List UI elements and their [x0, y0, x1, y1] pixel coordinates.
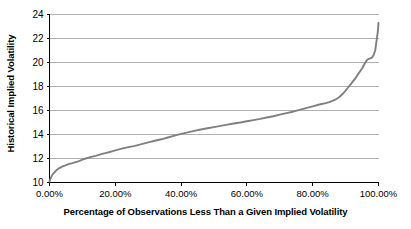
x-axis-title: Percentage of Observations Less Than a G…: [0, 206, 411, 217]
x-tick-label: 60.00%: [231, 188, 264, 199]
y-tick-label: 12: [32, 153, 44, 164]
y-tick-label: 18: [32, 81, 44, 92]
data-series-line: [50, 23, 379, 181]
x-axis-ticks-group: 0.00%20.00%40.00%60.00%80.00%100.00%: [36, 183, 398, 199]
chart-plot-area: 1012141618202224 0.00%20.00%40.00%60.00%…: [0, 0, 411, 229]
y-axis-ticks-group: 1012141618202224: [32, 9, 49, 188]
y-tick-label: 14: [32, 129, 44, 140]
x-tick-label: 0.00%: [36, 188, 63, 199]
y-tick-label: 10: [32, 177, 44, 188]
axis-lines: [50, 15, 379, 183]
x-tick-label: 40.00%: [165, 188, 198, 199]
y-tick-label: 16: [32, 105, 44, 116]
x-tick-label: 20.00%: [99, 188, 132, 199]
x-tick-label: 80.00%: [297, 188, 330, 199]
y-tick-label: 24: [32, 9, 44, 20]
x-tick-label: 100.00%: [360, 188, 398, 199]
x-axis-title-text: Percentage of Observations Less Than a G…: [64, 206, 348, 217]
chart-figure: Historical Implied Volatility 1012141618…: [0, 0, 411, 229]
y-tick-label: 22: [32, 33, 44, 44]
gridlines-group: [50, 15, 379, 159]
y-tick-label: 20: [32, 57, 44, 68]
